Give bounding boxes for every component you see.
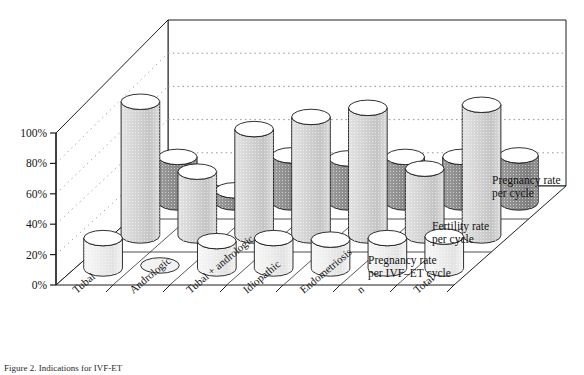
figure-caption: Figure 2. Indications for IVF-ET — [4, 363, 123, 373]
legend-item-2-line2: per cycle — [492, 187, 534, 200]
y-tick-60: 60% — [26, 188, 48, 200]
y-tick-40: 40% — [26, 218, 48, 230]
bar-middle-0 — [121, 94, 160, 243]
bar-middle-3 — [292, 109, 331, 243]
figure-container: 0% 20% 40% 60% 80% 100% TubalAndrologicT… — [0, 0, 584, 375]
chart-3d-cylinder: 0% 20% 40% 60% 80% 100% TubalAndrologicT… — [0, 0, 584, 375]
y-tick-80: 80% — [26, 157, 48, 169]
legend-item-1-line1: Fertility rate — [432, 220, 489, 233]
y-tick-20: 20% — [26, 249, 48, 261]
y-tick-0: 0% — [32, 279, 48, 291]
legend-item-0-line1: Pregnancy rate — [368, 254, 437, 267]
bar-middle-2 — [235, 121, 274, 243]
legend-item-1-line2: per cycle — [432, 233, 474, 246]
bar-middle-4 — [349, 100, 388, 243]
legend-item-0-line2: per IVF–ET cycle — [368, 267, 451, 280]
bar-front-0 — [84, 230, 123, 276]
y-tick-100: 100% — [20, 127, 47, 139]
bar-middle-1 — [178, 164, 217, 243]
legend-item-2-line1: Pregnancy rate — [492, 174, 561, 187]
